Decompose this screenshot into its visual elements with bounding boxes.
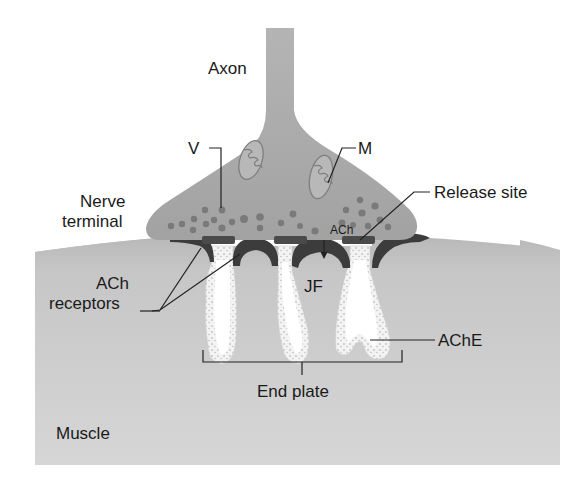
- release-sites: [202, 236, 375, 244]
- label-mitochondrion: M: [358, 139, 372, 158]
- label-junctional-fold: JF: [304, 277, 323, 296]
- label-nerve-terminal-1: Nerve: [80, 192, 125, 211]
- label-ache: AChE: [438, 331, 482, 350]
- label-nerve-terminal-2: terminal: [62, 212, 122, 231]
- label-release-site: Release site: [434, 183, 528, 202]
- neuromuscular-junction-diagram: Axon V M Nerve terminal Release site ACh…: [0, 0, 582, 489]
- label-end-plate: End plate: [257, 382, 329, 401]
- label-vesicle: V: [188, 139, 200, 158]
- label-ach-receptors-2: receptors: [49, 294, 120, 313]
- nerve-terminal: [146, 28, 417, 244]
- label-muscle: Muscle: [56, 424, 110, 443]
- label-ach: ACh: [330, 223, 353, 237]
- label-axon: Axon: [208, 59, 247, 78]
- label-ach-receptors-1: ACh: [96, 274, 129, 293]
